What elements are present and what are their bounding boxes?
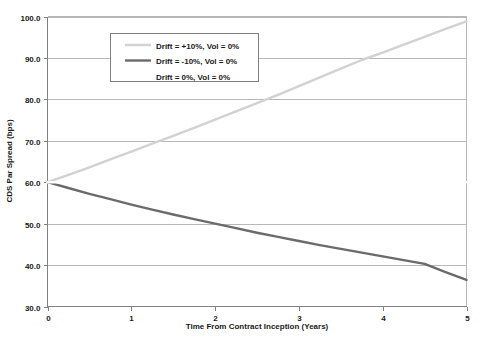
y-tick-label: 100.0	[20, 14, 41, 23]
x-tick-label: 5	[465, 314, 470, 323]
x-tick-label: 4	[381, 314, 386, 323]
y-axis-title: CDS Par Spread (bps)	[5, 119, 14, 202]
legend-label: Drift = 0%, Vol = 0%	[156, 73, 230, 82]
chart-canvas: 30.040.050.060.070.080.090.0100.0 012345…	[0, 0, 484, 341]
x-tick-label: 1	[129, 314, 134, 323]
legend-label: Drift = -10%, Vol = 0%	[156, 57, 237, 66]
legend: Drift = +10%, Vol = 0%Drift = -10%, Vol …	[111, 34, 259, 82]
y-tick-label: 40.0	[25, 262, 41, 271]
axis-titles: Time From Contract Inception (Years) CDS…	[5, 119, 329, 331]
y-axis: 30.040.050.060.070.080.090.0100.0	[20, 14, 47, 313]
y-tick-label: 30.0	[25, 304, 41, 313]
y-tick-label: 90.0	[25, 55, 41, 64]
y-tick-label: 50.0	[25, 221, 41, 230]
x-axis-title: Time From Contract Inception (Years)	[186, 322, 329, 331]
x-axis: 012345	[46, 307, 470, 323]
y-tick-label: 80.0	[25, 96, 41, 105]
y-tick-label: 70.0	[25, 138, 41, 147]
x-tick-label: 0	[46, 314, 51, 323]
legend-label: Drift = +10%, Vol = 0%	[156, 42, 239, 51]
cds-par-spread-chart: 30.040.050.060.070.080.090.0100.0 012345…	[0, 0, 484, 341]
y-tick-label: 60.0	[25, 179, 41, 188]
